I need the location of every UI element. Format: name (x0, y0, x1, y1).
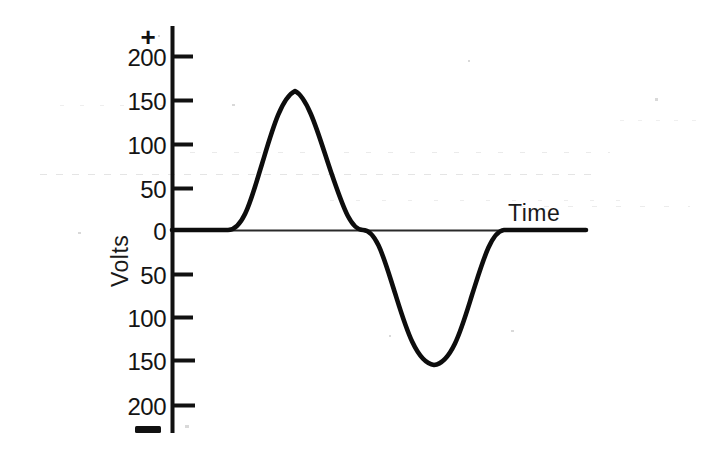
y-tick-label-50-positive: 50 (140, 176, 166, 203)
y-tick-label-200-negative: 200 (127, 393, 166, 420)
y-tick-label-150-negative: 150 (127, 348, 166, 375)
y-tick-label-50-negative: 50 (140, 262, 166, 289)
x-axis-title: Time (508, 200, 560, 226)
plot-area: + 200 150 100 50 0 50 100 150 200 Volts … (0, 0, 716, 451)
negative-polarity-sign (135, 426, 161, 433)
y-tick-label-zero: 0 (153, 218, 166, 245)
y-tick-label-150-positive: 150 (127, 88, 166, 115)
y-tick-label-100-negative: 100 (127, 305, 166, 332)
sine-waveform-curve (172, 91, 586, 365)
waveform-figure: + 200 150 100 50 0 50 100 150 200 Volts … (0, 0, 716, 451)
y-axis-title: Volts (107, 235, 133, 287)
y-tick-label-100-positive: 100 (127, 132, 166, 159)
y-tick-label-200-positive: 200 (127, 44, 166, 71)
